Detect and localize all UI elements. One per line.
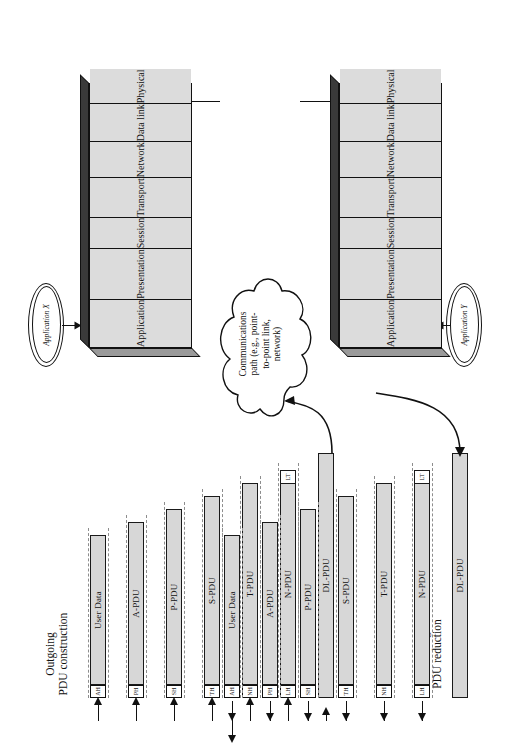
layer-cell-network-x: Network xyxy=(90,141,191,177)
arrow-head-1 xyxy=(132,697,140,705)
in-pdu-bar-user-data: User Data xyxy=(224,535,240,685)
in-dash-bot-0 xyxy=(242,528,243,698)
in-pdu-trailer-lt: LT xyxy=(415,471,429,484)
layer-cell-session-x: Session xyxy=(90,217,191,249)
in-arrow-head-final xyxy=(228,735,236,743)
in-arrow-head-4 xyxy=(380,713,388,721)
stack-y-front: Application Presentation Session Transpo… xyxy=(339,83,442,348)
in-pdu-header-ph: PH xyxy=(262,685,278,698)
dash-top-1 xyxy=(126,515,127,698)
pdu-label-1: A-PDU xyxy=(131,523,141,684)
in-pdu-header-sh: SH xyxy=(300,685,316,698)
in-arrow-head-1 xyxy=(266,713,274,721)
layer-cell-session-y: Session xyxy=(340,217,441,249)
in-pdu-label-0: User Data xyxy=(227,536,237,684)
dash-top-0 xyxy=(88,528,89,698)
stack-x-physical-link xyxy=(192,101,220,102)
stack-x-top-face xyxy=(80,74,89,348)
stack-x-front: Application Presentation Session Transpo… xyxy=(89,83,192,348)
in-arrow-head-3 xyxy=(342,713,350,721)
layer-cell-datalink-x: Data link xyxy=(90,103,191,141)
in-dash-bot-3 xyxy=(356,489,357,698)
in-dash-bot-4 xyxy=(394,476,395,698)
layer-cell-application-x: Application xyxy=(90,299,191,347)
pdu-bar-user-data: User Data xyxy=(90,535,106,685)
in-pdu-label-6: DL-PDU xyxy=(455,454,465,697)
layer-cell-datalink-y: Data link xyxy=(340,103,441,141)
in-pdu-bar-dl-pdu: DL-PDU xyxy=(452,453,468,698)
stack-x-side-face xyxy=(89,348,201,357)
in-arrow-head-2 xyxy=(304,713,312,721)
layer-cell-transport-x: Transport xyxy=(90,177,191,217)
in-dash-top-3 xyxy=(336,489,337,698)
incoming-pdu-group: DL-PDU N-PDU LT LH T-PDU NH xyxy=(152,381,452,721)
stack-x: Application Presentation Session Transpo… xyxy=(80,83,192,357)
in-pdu-header-ah: AH xyxy=(224,685,240,698)
layer-cell-physical-x: Physical xyxy=(90,69,191,103)
dash-bot-0 xyxy=(108,528,109,698)
in-pdu-label-5: N-PDU xyxy=(417,484,427,684)
outgoing-section-heading: Outgoing PDU construction xyxy=(44,589,70,719)
in-arrow-head-5 xyxy=(418,713,426,721)
application-y-label: Application Y xyxy=(460,304,469,345)
in-arrow-head-0 xyxy=(228,713,236,721)
in-pdu-header-nh: NH xyxy=(376,685,392,698)
arrow-head-0 xyxy=(94,697,102,705)
in-dash-bot-5 xyxy=(432,463,433,698)
in-dash-top-5 xyxy=(412,463,413,698)
in-pdu-label-1: A-PDU xyxy=(265,523,275,684)
in-pdu-header-th: TH xyxy=(338,685,354,698)
layer-cell-application-y: Application xyxy=(340,299,441,347)
layer-cell-network-y: Network xyxy=(340,141,441,177)
pdu-bar-a-pdu: A-PDU xyxy=(128,522,144,685)
in-pdu-bar-a-pdu: A-PDU xyxy=(262,522,278,685)
in-pdu-bar-s-pdu: S-PDU xyxy=(338,496,354,685)
in-dash-bot-1 xyxy=(280,515,281,698)
in-pdu-header-lh: LH xyxy=(414,685,430,698)
layer-cell-physical-y: Physical xyxy=(340,69,441,103)
stack-y: Application Presentation Session Transpo… xyxy=(330,83,442,357)
dash-bot-1 xyxy=(146,515,147,698)
application-x-label: Application X xyxy=(42,304,51,345)
in-dash-top-0 xyxy=(222,528,223,698)
layer-cell-transport-y: Transport xyxy=(340,177,441,217)
layer-cell-presentation-x: Presentation xyxy=(90,248,191,298)
in-pdu-label-4: T-PDU xyxy=(379,484,389,684)
in-pdu-bar-t-pdu: T-PDU xyxy=(376,483,392,685)
layer-cell-presentation-y: Presentation xyxy=(340,248,441,298)
stack-y-physical-link xyxy=(300,101,330,102)
cloud-to-dl-pdu-curve xyxy=(374,341,484,471)
in-pdu-bar-p-pdu: P-PDU xyxy=(300,509,316,685)
in-dash-top-2 xyxy=(298,502,299,698)
in-dash-top-4 xyxy=(374,476,375,698)
in-pdu-label-3: S-PDU xyxy=(341,497,351,684)
stack-y-top-face xyxy=(330,74,339,348)
in-dash-top-1 xyxy=(260,515,261,698)
application-x-ellipse: Application X xyxy=(28,283,64,367)
in-pdu-bar-n-pdu: N-PDU LT xyxy=(414,470,430,685)
pdu-label-0: User Data xyxy=(93,536,103,684)
in-pdu-label-2: P-PDU xyxy=(303,510,313,684)
in-arrow-line-final xyxy=(232,721,233,735)
in-dash-bot-2 xyxy=(318,502,319,698)
